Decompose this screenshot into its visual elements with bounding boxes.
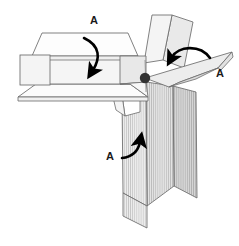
label-a-bottom: A: [106, 150, 114, 162]
folding-panel-diagram: A A A: [0, 0, 239, 246]
label-a-right: A: [216, 67, 224, 79]
top-left-bottom-flap-edge: [18, 97, 148, 101]
upper-fin-group: [144, 15, 193, 68]
label-a-top: A: [90, 14, 98, 26]
figure-canvas: A A A: [0, 0, 239, 246]
top-left-side-flap: [20, 55, 50, 85]
lower-panel-center: [146, 82, 174, 206]
top-left-box-top: [32, 33, 138, 56]
lower-panel-right: [173, 86, 197, 198]
top-left-box-group: [18, 33, 148, 101]
top-left-bottom-flap: [18, 84, 148, 97]
pivot-node: [140, 73, 150, 83]
